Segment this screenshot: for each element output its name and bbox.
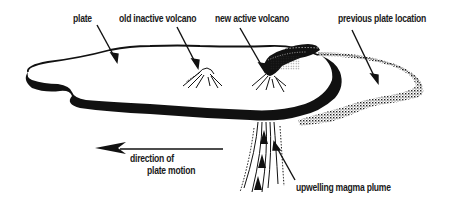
label-plate: plate: [73, 12, 92, 25]
leader-new-volcano: [240, 28, 263, 68]
label-previous-plate-location: previous plate location: [338, 12, 426, 25]
arrowhead-left-icon: [95, 142, 126, 154]
leader-plume: [276, 146, 295, 180]
old-volcano-icon: [183, 68, 222, 88]
label-upwelling-magma-plume: upwelling magma plume: [296, 181, 391, 194]
label-old-inactive-volcano: old inactive volcano: [119, 12, 196, 25]
leader-previous-location: [352, 30, 375, 78]
magma-plume: [240, 122, 284, 192]
hotspot-diagram: [0, 0, 451, 205]
label-new-active-volcano: new active volcano: [215, 12, 289, 25]
previous-plate-outline: [298, 52, 423, 126]
label-direction-line2: plate motion: [147, 164, 195, 177]
